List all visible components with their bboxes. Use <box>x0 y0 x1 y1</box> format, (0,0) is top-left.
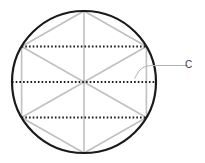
diagram-canvas: C <box>0 0 205 163</box>
label-c: C <box>185 60 192 70</box>
label-leader-line <box>135 66 189 79</box>
geometry-figure <box>0 0 205 163</box>
